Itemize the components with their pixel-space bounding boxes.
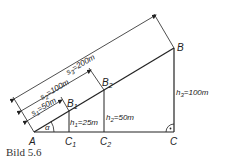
incline-diagram: A B C C1 C2 B1 B2 α h1=25m h2=50m h3=100…: [0, 0, 226, 165]
distance-label-s3: s3=200m: [64, 52, 97, 77]
angle-arc-icon: [51, 122, 54, 133]
point-label-B1: B1: [67, 98, 78, 110]
height-label-h1: h1=25m: [70, 118, 98, 128]
point-label-C2: C2: [100, 136, 111, 148]
point-label-C1: C1: [65, 136, 76, 148]
point-label-C: C: [170, 136, 178, 147]
point-label-B2: B2: [102, 77, 113, 89]
point-label-B: B: [177, 42, 184, 53]
figure-caption: Bild 5.6: [6, 146, 41, 158]
angle-label-alpha: α: [45, 123, 50, 132]
height-label-h2: h2=50m: [106, 113, 134, 123]
height-label-h3: h3=100m: [176, 88, 209, 98]
